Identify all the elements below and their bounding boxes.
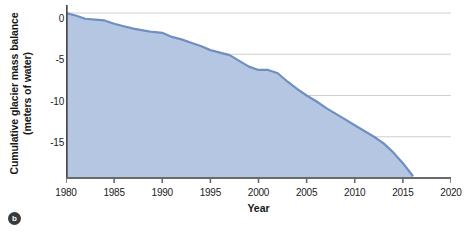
figure-container: Cumulative glacier mass balance (meters … xyxy=(0,0,465,234)
x-tick-label: 2015 xyxy=(392,187,413,198)
area-chart-svg xyxy=(66,5,451,185)
y-tick-label: -15 xyxy=(38,136,64,147)
y-axis-title-line-1: Cumulative glacier mass balance xyxy=(8,12,21,174)
x-axis-title: Year xyxy=(66,202,451,214)
x-tick-label: 2010 xyxy=(344,187,365,198)
x-tick-label: 2005 xyxy=(296,187,317,198)
x-tick-label: 1990 xyxy=(152,187,173,198)
plot-area xyxy=(66,5,451,185)
x-tick-label: 1995 xyxy=(200,187,221,198)
y-tick-label: 0 xyxy=(38,13,64,24)
y-axis-title-line-2: (meters of water) xyxy=(20,12,33,174)
x-tick-label: 2000 xyxy=(248,187,269,198)
x-axis-tick-labels: 198019851990199520002005201020152020 xyxy=(66,187,451,201)
x-tick-label: 1980 xyxy=(55,187,76,198)
x-tick-label: 1985 xyxy=(103,187,124,198)
y-tick-label: -10 xyxy=(38,95,64,106)
y-tick-label: -5 xyxy=(38,54,64,65)
figure-badge: b xyxy=(8,212,21,225)
y-axis-tick-labels: 0-5-10-15 xyxy=(34,5,64,185)
x-tick-label: 2020 xyxy=(440,187,461,198)
